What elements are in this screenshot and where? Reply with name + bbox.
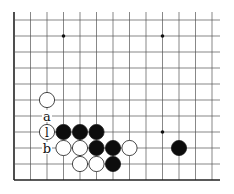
black-stone	[171, 140, 186, 155]
black-stone	[89, 124, 104, 139]
star-point	[161, 34, 165, 38]
black-stone	[56, 124, 71, 139]
white-stone	[72, 156, 87, 171]
black-stone	[72, 124, 87, 139]
black-stone	[105, 156, 120, 171]
star-point	[161, 130, 165, 134]
point-label-a: a	[43, 109, 51, 124]
white-stone	[89, 156, 104, 171]
point-label-b: b	[43, 141, 51, 156]
go-board-diagram: ab l	[0, 0, 234, 194]
white-stone	[72, 140, 87, 155]
black-stone	[89, 140, 104, 155]
white-stone	[39, 92, 54, 107]
star-point	[62, 34, 66, 38]
black-stone	[105, 140, 120, 155]
stone-label: l	[45, 126, 49, 140]
white-stone	[122, 140, 137, 155]
white-stone	[56, 140, 71, 155]
